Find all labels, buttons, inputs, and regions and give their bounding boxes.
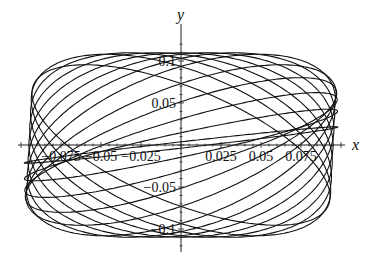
x-axis-label: x: [351, 136, 359, 153]
chart: −0.075−0.05−0.0250.0250.050.0750.10.05−0…: [0, 0, 383, 256]
y-tick-label: −0.05: [144, 180, 176, 195]
y-axis-label: y: [175, 6, 185, 24]
x-tick-label: 0.05: [249, 149, 274, 164]
plot-area: −0.075−0.05−0.0250.0250.050.0750.10.05−0…: [0, 0, 383, 256]
x-tick-label: −0.05: [85, 149, 117, 164]
y-tick-label: −0.1: [151, 222, 176, 237]
x-tick-label: 0.025: [205, 149, 237, 164]
x-tick-label: −0.025: [121, 149, 160, 164]
y-tick-label: 0.1: [159, 54, 177, 69]
x-tick-label: 0.075: [285, 149, 317, 164]
x-tick-label: −0.075: [41, 149, 80, 164]
y-tick-label: 0.05: [152, 96, 177, 111]
